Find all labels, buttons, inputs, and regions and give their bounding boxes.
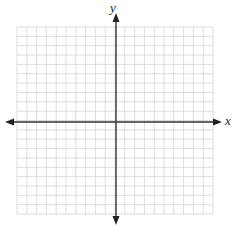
x-axis-left-arrow-icon: [5, 119, 14, 126]
x-axis-label: x: [225, 114, 231, 127]
y-axis-label: y: [110, 1, 116, 14]
x-axis-right-arrow-icon: [213, 119, 222, 126]
x-axis: [5, 119, 222, 126]
y-axis: [113, 13, 120, 225]
coordinate-plane: [0, 0, 233, 230]
grid-lines: [17, 27, 213, 214]
y-axis-down-arrow-icon: [113, 216, 120, 225]
